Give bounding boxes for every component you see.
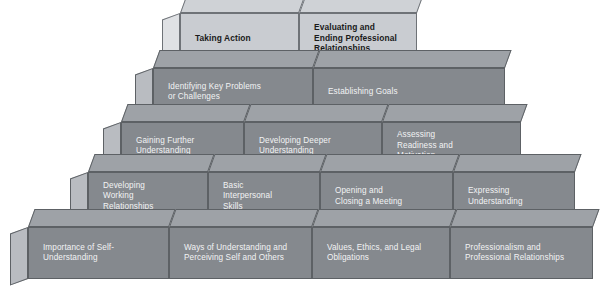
pyramid-block[interactable]: Professionalism andProfessional Relation… <box>450 227 593 279</box>
block-top-face <box>450 209 600 227</box>
block-front-face: Professionalism andProfessional Relation… <box>450 227 593 279</box>
block-label-line: Perceiving Self and Others <box>184 253 287 264</box>
block-label-line: Professionalism and <box>465 243 564 254</box>
block-label-line: Understanding <box>43 253 114 264</box>
pyramid-block[interactable]: Importance of Self-Understanding <box>28 227 169 279</box>
block-label: Professionalism andProfessional Relation… <box>451 243 570 264</box>
pyramid-block[interactable]: Ways of Understanding andPerceiving Self… <box>169 227 312 279</box>
block-label: Ways of Understanding andPerceiving Self… <box>170 243 293 264</box>
block-label-line: Importance of Self- <box>43 243 114 254</box>
block-label: Importance of Self-Understanding <box>29 243 120 264</box>
block-front-face: Ways of Understanding andPerceiving Self… <box>169 227 312 279</box>
block-label: Values, Ethics, and LegalObligations <box>313 243 427 264</box>
block-top-face <box>28 209 176 227</box>
block-top-face <box>312 209 457 227</box>
block-left-face <box>10 227 28 286</box>
block-front-face: Values, Ethics, and LegalObligations <box>312 227 450 279</box>
block-label-line: Values, Ethics, and Legal <box>327 243 421 254</box>
block-front-face: Importance of Self-Understanding <box>28 227 169 279</box>
block-top-face <box>169 209 319 227</box>
pyramid-block[interactable]: Values, Ethics, and LegalObligations <box>312 227 450 279</box>
block-label-line: Ways of Understanding and <box>184 243 287 254</box>
block-label-line: Professional Relationships <box>465 253 564 264</box>
block-label-line: Obligations <box>327 253 421 264</box>
